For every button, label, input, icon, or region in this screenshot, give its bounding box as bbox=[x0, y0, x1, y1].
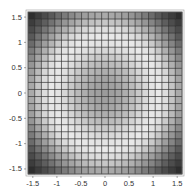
density-cell bbox=[155, 82, 162, 89]
density-cell bbox=[102, 54, 109, 61]
density-cell bbox=[61, 75, 68, 82]
density-cell bbox=[95, 54, 102, 61]
density-cell bbox=[149, 132, 156, 139]
density-cell bbox=[55, 125, 62, 132]
density-cell bbox=[122, 104, 129, 111]
density-cell bbox=[149, 75, 156, 82]
density-cell bbox=[122, 97, 129, 104]
density-cell bbox=[142, 160, 149, 167]
density-cell bbox=[41, 75, 48, 82]
density-cell bbox=[95, 132, 102, 139]
density-cell bbox=[115, 97, 122, 104]
density-cell bbox=[55, 167, 62, 174]
density-cell bbox=[35, 68, 42, 75]
density-cell bbox=[122, 153, 129, 160]
density-cell bbox=[28, 132, 35, 139]
density-cell bbox=[175, 167, 182, 174]
density-cell bbox=[28, 19, 35, 26]
y-tick-label: 1.5 bbox=[12, 13, 22, 22]
density-cell bbox=[61, 146, 68, 153]
density-cell bbox=[48, 118, 55, 125]
density-cell bbox=[68, 146, 75, 153]
density-cell bbox=[35, 89, 42, 96]
x-tick-label: 1 bbox=[151, 179, 155, 188]
density-cell bbox=[169, 118, 176, 125]
density-cell bbox=[82, 146, 89, 153]
density-cell bbox=[142, 146, 149, 153]
density-cell bbox=[41, 47, 48, 54]
y-tick-label: -0.5 bbox=[9, 114, 22, 123]
density-cell bbox=[122, 111, 129, 118]
density-cell bbox=[115, 160, 122, 167]
density-cell bbox=[155, 167, 162, 174]
density-cell bbox=[122, 47, 129, 54]
density-cell bbox=[135, 153, 142, 160]
density-cell bbox=[142, 167, 149, 174]
density-cell bbox=[61, 139, 68, 146]
density-cell bbox=[122, 160, 129, 167]
density-cell bbox=[41, 40, 48, 47]
density-cell bbox=[75, 75, 82, 82]
density-cell bbox=[162, 89, 169, 96]
density-cell bbox=[135, 19, 142, 26]
density-cell bbox=[35, 61, 42, 68]
density-cell bbox=[82, 61, 89, 68]
density-cell bbox=[135, 61, 142, 68]
density-cell bbox=[75, 153, 82, 160]
density-cell bbox=[35, 54, 42, 61]
density-cell bbox=[115, 12, 122, 19]
density-cell bbox=[88, 61, 95, 68]
density-cell bbox=[55, 54, 62, 61]
density-cell bbox=[162, 40, 169, 47]
density-cell bbox=[169, 132, 176, 139]
density-cell bbox=[61, 97, 68, 104]
density-cell bbox=[128, 111, 135, 118]
density-cell bbox=[82, 47, 89, 54]
density-cell bbox=[102, 125, 109, 132]
density-cell bbox=[55, 61, 62, 68]
density-cell bbox=[61, 33, 68, 40]
density-cell bbox=[149, 26, 156, 33]
density-cell bbox=[155, 132, 162, 139]
density-cell bbox=[169, 12, 176, 19]
density-cell bbox=[108, 47, 115, 54]
density-cell bbox=[88, 33, 95, 40]
density-cell bbox=[135, 146, 142, 153]
density-cell bbox=[88, 54, 95, 61]
density-cell bbox=[35, 26, 42, 33]
density-cell bbox=[128, 75, 135, 82]
density-cell bbox=[169, 19, 176, 26]
density-cell bbox=[128, 104, 135, 111]
density-cell bbox=[28, 12, 35, 19]
density-cell bbox=[128, 125, 135, 132]
density-cell bbox=[55, 89, 62, 96]
density-cell bbox=[122, 75, 129, 82]
density-cell bbox=[122, 89, 129, 96]
density-cell bbox=[55, 47, 62, 54]
density-cell bbox=[28, 89, 35, 96]
density-cell bbox=[175, 153, 182, 160]
density-cell bbox=[41, 61, 48, 68]
density-cell bbox=[95, 153, 102, 160]
density-cell bbox=[75, 54, 82, 61]
density-cell bbox=[135, 167, 142, 174]
density-cell bbox=[68, 97, 75, 104]
density-cell bbox=[28, 153, 35, 160]
density-cell bbox=[175, 75, 182, 82]
density-cell bbox=[35, 47, 42, 54]
density-cell bbox=[122, 146, 129, 153]
density-cell bbox=[142, 75, 149, 82]
density-cell bbox=[82, 82, 89, 89]
density-cell bbox=[169, 82, 176, 89]
x-tick-label: 0 bbox=[103, 179, 107, 188]
density-cell bbox=[75, 26, 82, 33]
density-cell bbox=[102, 26, 109, 33]
density-cell bbox=[95, 89, 102, 96]
density-cell bbox=[55, 12, 62, 19]
density-cell bbox=[175, 26, 182, 33]
density-cell bbox=[135, 160, 142, 167]
density-cell bbox=[75, 139, 82, 146]
density-cell bbox=[28, 75, 35, 82]
density-cell bbox=[95, 61, 102, 68]
density-cell bbox=[169, 26, 176, 33]
